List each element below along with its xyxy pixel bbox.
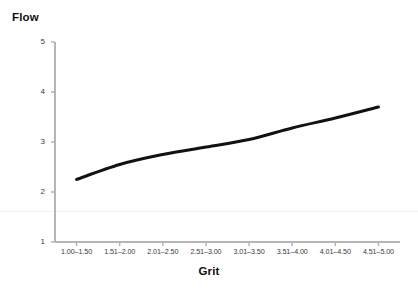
y-tick-label: 5 xyxy=(23,38,45,46)
data-series-line-flow xyxy=(77,107,379,180)
x-tick-label: 4.51–5.00 xyxy=(353,247,403,256)
y-tick-label: 2 xyxy=(23,188,45,196)
y-tick-label: 3 xyxy=(23,138,45,146)
y-tick-label: 1 xyxy=(23,238,45,246)
y-tick-label: 4 xyxy=(23,88,45,96)
x-axis-title: Grit xyxy=(0,265,418,277)
flow-vs-grit-line-chart: Flow 12345 1.00–1.501.51–2.002.01–2.502.… xyxy=(0,0,418,295)
